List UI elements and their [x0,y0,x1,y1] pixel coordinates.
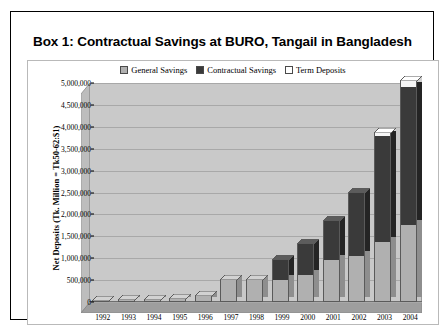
x-tick-label: 1996 [198,313,213,322]
x-tick-label: 2003 [377,313,392,322]
x-tick-label: 1993 [121,313,136,322]
bar-segment[interactable] [297,275,314,302]
y-tick-label: 2,000,000 [61,210,91,219]
bar-top-cap [246,275,268,280]
bar-series-group [89,83,422,302]
x-tick-label: 1994 [147,313,162,322]
x-tick-label: 2000 [300,313,315,322]
y-tick-mark [91,104,94,105]
y-tick-mark [91,258,94,259]
bar-segment[interactable] [374,133,391,136]
y-tick-mark [91,126,94,127]
bar-column[interactable] [169,83,186,302]
bar-column[interactable] [144,83,161,302]
bar-top-cap [92,296,114,301]
bar-baseline [323,301,340,302]
bar-baseline [92,301,109,302]
bar-baseline [348,301,365,302]
bar-segment[interactable] [400,81,417,88]
y-tick-label: 4,000,000 [61,122,91,131]
y-tick-mark [91,192,94,193]
bar-segment[interactable] [246,280,263,302]
bar-column[interactable] [272,83,289,302]
x-tick-label: 1998 [249,313,264,322]
x-tick-label: 2001 [326,313,341,322]
bar-column[interactable] [246,83,263,302]
bar-column[interactable] [374,83,391,302]
x-tick-label: 1999 [275,313,290,322]
bar-segment[interactable] [348,193,365,257]
bar-segment[interactable] [400,225,417,302]
bar-segment-side [340,255,345,297]
gridline [89,302,422,303]
y-tick-label: 1,000,000 [61,254,91,263]
bar-segment[interactable] [400,87,417,225]
y-tick-mark [91,148,94,149]
x-tick-label: 1997 [223,313,238,322]
bar-top-cap [323,216,345,221]
y-tick-label: 3,500,000 [61,144,91,153]
bar-baseline [374,301,391,302]
plot-area [81,83,422,313]
bar-column[interactable] [92,83,109,302]
bar-segment[interactable] [272,260,289,280]
bar-segment-side [417,220,422,297]
y-tick-label: 500,000 [67,276,91,285]
bar-baseline [118,301,135,302]
bar-column[interactable] [118,83,135,302]
bar-baseline [246,301,263,302]
y-tick-label: 3,000,000 [61,166,91,175]
y-tick-label: 2,500,000 [61,188,91,197]
bar-column[interactable] [220,83,237,302]
y-tick-mark [91,280,94,281]
bar-segment[interactable] [220,280,237,302]
bar-segment-side [314,270,319,297]
x-tick-label: 1995 [172,313,187,322]
bar-segment[interactable] [348,256,365,302]
bar-column[interactable] [323,83,340,302]
y-axis-title: Net Deposits (Tk. Million = Tk50-62:$1) [50,83,62,313]
x-tick-label: 2004 [403,313,418,322]
bar-top-cap [220,275,242,280]
bar-segment[interactable] [323,221,340,260]
chart-container: General SavingsContractual SavingsTerm D… [27,60,439,325]
x-tick-label: 2002 [351,313,366,322]
bar-segment[interactable] [374,136,391,241]
box-title: Box 1: Contractual Savings at BURO, Tang… [33,34,412,49]
bar-top-cap [400,76,422,81]
bar-top-cap [272,255,294,260]
bar-top-cap [195,291,217,296]
bar-segment[interactable] [323,260,340,302]
bar-baseline [272,301,289,302]
y-tick-mark [91,83,94,84]
bar-segment-side [365,251,370,297]
y-tick-mark [91,170,94,171]
bar-segment-side [417,82,422,220]
bar-column[interactable] [400,83,417,302]
plot-wrapper: Net Deposits (Tk. Million = Tk50-62:$1) [28,61,438,324]
bar-segment[interactable] [297,244,314,275]
bar-top-cap [297,239,319,244]
bar-baseline [297,301,314,302]
bar-segment-side [289,275,294,297]
x-tick-label: 1992 [95,313,110,322]
bar-column[interactable] [297,83,314,302]
bar-column[interactable] [195,83,212,302]
bar-top-cap [144,295,166,300]
bar-segment[interactable] [272,280,289,302]
bar-baseline [400,301,417,302]
box-frame: Box 1: Contractual Savings at BURO, Tang… [10,11,434,320]
bar-segment-side [365,188,370,252]
bar-segment[interactable] [374,242,391,302]
bar-top-cap [348,188,370,193]
y-tick-mark [91,302,94,303]
bar-column[interactable] [348,83,365,302]
bar-segment-side [391,131,396,236]
bar-top-cap [374,128,396,133]
bar-baseline [195,301,212,302]
bar-baseline [220,301,237,302]
y-tick-label: 4,500,000 [61,100,91,109]
bar-baseline [169,301,186,302]
y-tick-label: 5,000,000 [61,79,91,88]
y-tick-label: 1,500,000 [61,232,91,241]
